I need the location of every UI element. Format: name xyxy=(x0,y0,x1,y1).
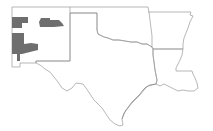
gulf-coastline xyxy=(122,84,156,119)
state-louisiana xyxy=(153,49,198,91)
state-texas xyxy=(36,13,157,126)
highlight-nm-northwest xyxy=(12,17,28,28)
state-arkansas xyxy=(148,12,193,49)
region-map xyxy=(0,0,213,131)
highlight-nm-southwest xyxy=(12,33,38,61)
highlight-nm-north-central xyxy=(39,18,64,27)
